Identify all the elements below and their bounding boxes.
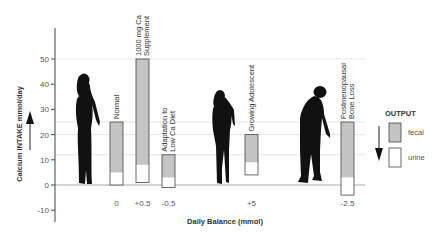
bar-urine-segment [110,172,123,185]
legend-label-urine: urine [408,153,425,162]
bar-urine-segment [245,162,258,175]
y-tick-label: 10 [40,156,49,165]
bar-fecal-segment [245,135,258,163]
y-tick-label: 40 [40,80,49,89]
legend-swatch-fecal [389,123,401,142]
y-tick-label: 50 [40,55,49,64]
intake-arrow-icon [26,111,34,124]
legend-label-fecal: fecal [408,128,424,137]
chart: -1001020304050 Calcium INTAKE mmol/day N… [0,0,444,236]
output-arrow-icon [375,148,383,161]
bar-category-label: Supplement [142,15,151,56]
y-tick-label: -10 [37,206,49,215]
bar-urine-segment [162,177,175,187]
balance-label: 0 [114,199,119,208]
bar-urine-segment [341,177,354,195]
bar-category-label: Bone Loss [347,83,356,119]
bar-fecal-segment [110,122,123,172]
bar-fecal-segment [136,59,149,165]
adolescent-silhouette-icon [212,90,235,184]
y-axis-title-group: Calcium INTAKE mmol/day [15,85,34,182]
y-tick-label: 0 [45,181,50,190]
x-axis-title: Daily Balance (mmol) [187,217,263,226]
y-ticks: -1001020304050 [37,55,55,215]
bar-category-label: Growing Adolescent [247,64,256,132]
bar-fecal-segment [341,122,354,177]
bar-fecal-segment [162,155,175,178]
balance-label: -2.5 [341,199,355,208]
bar-urine-segment [136,165,149,183]
balance-labels: 0+0.5-0.5+5-2.5 [114,199,355,208]
legend-swatch-urine [389,148,401,167]
balance-label: +0.5 [135,199,151,208]
woman-silhouette-icon [76,74,100,185]
legend-title: OUTPUT [385,109,416,118]
bar-category-label: Normal [112,94,121,119]
balance-label: +5 [247,199,257,208]
y-tick-label: 20 [40,131,49,140]
legend: OUTPUT fecal urine [375,109,425,167]
y-axis-title: Calcium INTAKE mmol/day [15,85,24,182]
balance-label: -0.5 [162,199,176,208]
y-tick-label: 30 [40,105,49,114]
bar-category-label: Low Ca Diet [168,110,177,152]
